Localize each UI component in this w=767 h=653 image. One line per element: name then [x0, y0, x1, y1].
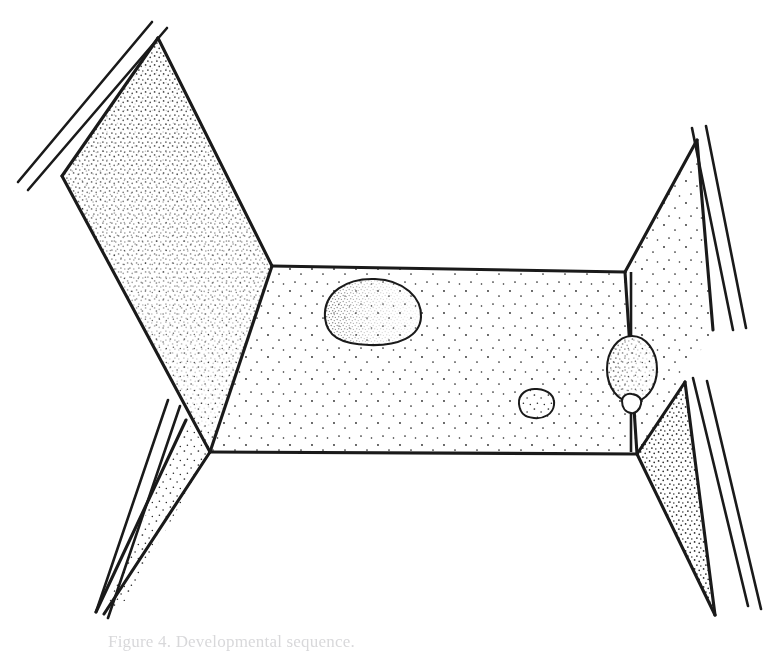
large-oval-inclusion	[325, 279, 421, 345]
line-drawing-canvas	[0, 0, 767, 653]
pendant-oval-inclusion	[607, 336, 657, 402]
floor-region	[210, 266, 637, 454]
figure-container: Figure 4. Developmental sequence.	[0, 0, 767, 653]
small-oval-inclusion	[519, 389, 554, 418]
floor-edge-bottom	[210, 452, 637, 454]
bud-inclusion	[622, 394, 641, 413]
